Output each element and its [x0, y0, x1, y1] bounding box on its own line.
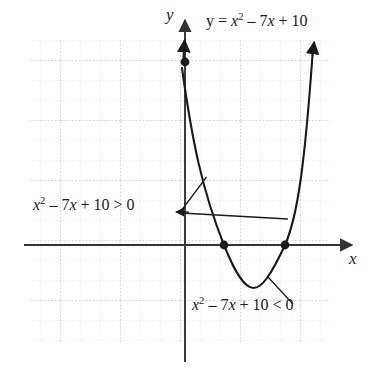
y-axis-label: y: [166, 6, 174, 23]
point-root-left: [220, 241, 229, 250]
negative-middle: – 7: [204, 296, 228, 313]
negative-region-label: x2 – 7x + 10 < 0: [192, 297, 294, 313]
point-root-right: [281, 241, 290, 250]
negative-suffix: + 10 < 0: [236, 296, 294, 313]
equation-var2: x: [267, 12, 274, 29]
equation-middle: – 7: [243, 12, 267, 29]
point-y-intercept: [181, 58, 190, 67]
equation-suffix: + 10: [275, 12, 308, 29]
plot-canvas: [0, 0, 370, 369]
negative-var2: x: [228, 296, 235, 313]
positive-region-label: x2 – 7x + 10 > 0: [33, 197, 135, 213]
positive-suffix: + 10 > 0: [77, 196, 135, 213]
x-axis-label: x: [349, 250, 357, 267]
quadratic-graph-figure: y = x2 – 7x + 10 x2 – 7x + 10 > 0 x2 – 7…: [0, 0, 370, 369]
equation-label: y = x2 – 7x + 10: [206, 13, 308, 29]
positive-var2: x: [69, 196, 76, 213]
left-branch-arrow: [184, 40, 185, 58]
equation-prefix: y =: [206, 12, 231, 29]
positive-middle: – 7: [45, 196, 69, 213]
